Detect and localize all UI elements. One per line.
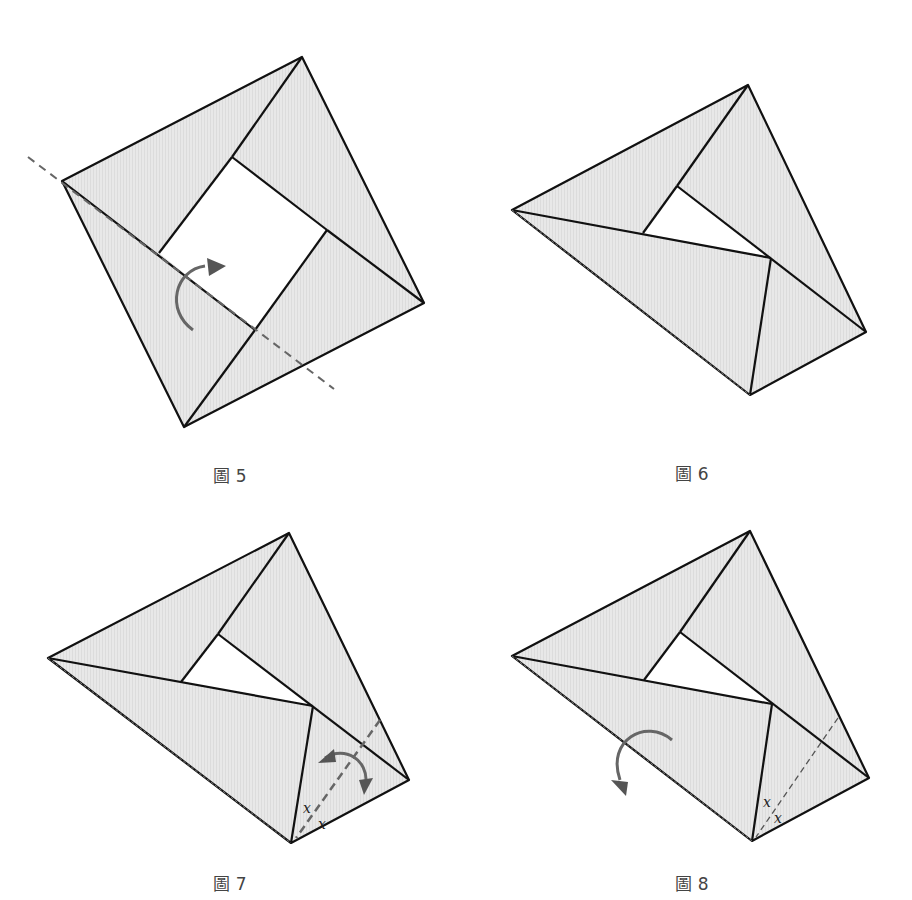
figure-8-diagram: x x [512,531,869,841]
figure-7-diagram: x x [48,533,409,843]
angle-label-x: x [303,800,311,816]
figure-5-caption: 圖 5 [213,462,246,487]
figure-6-diagram [512,85,866,395]
angle-label-x: x [774,810,782,826]
figure-6-caption: 圖 6 [675,460,708,485]
arrow-head-icon [207,258,226,276]
angle-label-x: x [318,816,326,832]
figure-5-diagram [28,57,424,427]
figure-8-caption: 圖 8 [675,870,708,895]
angle-label-x: x [763,794,771,810]
figure-7-caption: 圖 7 [213,870,246,895]
folded-square-paper [62,57,424,427]
